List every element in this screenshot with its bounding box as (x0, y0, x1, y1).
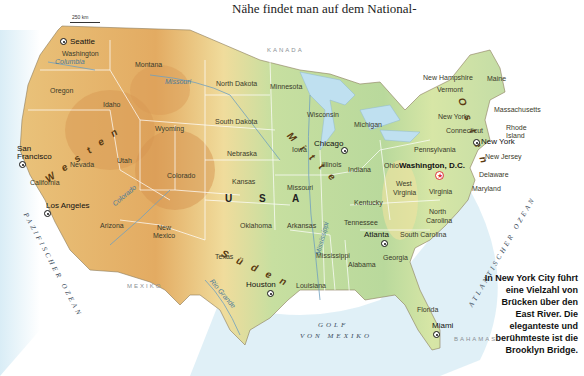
city-chicago: Chicago (314, 140, 343, 148)
state-florida: Florida (417, 306, 438, 313)
state-oklahoma: Oklahoma (240, 222, 272, 229)
state-kansas: Kansas (232, 178, 255, 185)
label-gulf-2: VON MEXIKO (300, 333, 372, 340)
state-minnesota: Minnesota (270, 83, 302, 90)
state-north-dakota: North Dakota (216, 80, 257, 87)
map-page: Nähe findet man auf dem National- (0, 0, 584, 376)
state-michigan: Michigan (354, 121, 382, 128)
state-rhode-island-1: Rhode (506, 124, 527, 131)
city-marker-atlanta (381, 240, 388, 247)
state-nebraska: Nebraska (227, 150, 257, 157)
state-missouri: Missouri (287, 184, 313, 191)
state-nevada: Nevada (70, 161, 94, 168)
label-canada: KANADA (267, 47, 304, 53)
state-louisiana: Louisiana (296, 282, 326, 289)
state-maryland: Maryland (472, 185, 501, 192)
city-los-angeles: Los Angeles (46, 202, 90, 210)
city-washington-dc: Washington, D.C. (399, 162, 465, 170)
city-marker-los-angeles (44, 210, 51, 217)
scale-label: 250 km (72, 14, 88, 20)
state-wisconsin: Wisconsin (307, 111, 339, 118)
state-alabama: Alabama (348, 261, 376, 268)
scale-bar (70, 22, 100, 23)
city-houston: Houston (246, 281, 276, 289)
state-oregon: Oregon (50, 87, 73, 94)
state-new-hampshire: New Hampshire (423, 74, 473, 81)
state-west-virginia-2: Virginia (393, 189, 416, 196)
state-tennessee: Tennessee (344, 219, 378, 226)
state-south-carolina: South Carolina (400, 231, 446, 238)
state-montana: Montana (135, 61, 162, 68)
state-georgia: Georgia (383, 254, 408, 261)
state-south-dakota: South Dakota (215, 118, 257, 125)
state-kentucky: Kentucky (354, 199, 383, 206)
state-new-york: New York (438, 113, 468, 120)
label-mexico: MEXIKO (127, 283, 162, 289)
state-maine: Maine (487, 75, 506, 82)
state-virginia: Virginia (429, 188, 452, 195)
city-atlanta: Atlanta (364, 231, 389, 239)
state-arkansas: Arkansas (287, 222, 316, 229)
state-mississippi: Mississippi (316, 252, 350, 259)
label-gulf-1: GOLF (318, 322, 348, 329)
state-north-carolina-1: North (429, 208, 446, 215)
state-washington: Washington (62, 50, 99, 57)
state-new-mexico-2: Mexico (153, 232, 175, 239)
state-colorado: Colorado (167, 172, 195, 179)
state-new-mexico-1: New (157, 224, 171, 231)
state-ohio: Ohio (384, 162, 399, 169)
river-columbia: Columbia (55, 58, 85, 65)
city-san-francisco-2: Francisco (17, 153, 52, 161)
state-delaware: Delaware (479, 171, 509, 178)
city-marker-miami (433, 331, 440, 338)
river-missouri: Missouri (165, 78, 191, 85)
capital-star-icon: ★ (435, 171, 444, 180)
city-miami: Miami (432, 322, 453, 330)
state-idaho: Idaho (103, 101, 121, 108)
state-texas: Texas (215, 253, 233, 260)
city-marker-seattle (60, 38, 67, 45)
state-vermont: Vermont (437, 86, 463, 93)
state-wyoming: Wyoming (155, 125, 184, 132)
state-illinois: Illinois (322, 161, 341, 168)
city-marker-houston (267, 290, 274, 297)
city-marker-san-francisco (19, 161, 26, 168)
city-marker-new-york (473, 139, 480, 146)
city-seattle: Seattle (70, 38, 95, 46)
state-north-carolina-2: Carolina (426, 217, 452, 224)
state-california: California (30, 179, 60, 186)
state-iowa: Iowa (292, 146, 307, 153)
state-indiana: Indiana (348, 166, 371, 173)
state-massachusetts: Massachusetts (494, 106, 541, 113)
state-new-jersey: New Jersey (485, 153, 522, 160)
state-pennsylvania: Pennsylvania (414, 146, 456, 153)
state-arizona: Arizona (100, 222, 124, 229)
state-connecticut: Connecticut (446, 127, 483, 134)
city-new-york: New York (481, 138, 515, 146)
city-marker-chicago (341, 147, 348, 154)
photo-caption: In New York City führt eine Vielzahl von… (482, 272, 578, 356)
state-utah: Utah (117, 157, 132, 164)
label-usa: U S A (225, 194, 311, 204)
state-west-virginia-1: West (396, 180, 412, 187)
